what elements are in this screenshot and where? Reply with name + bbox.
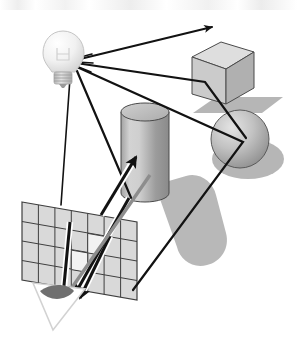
sphere-object: [211, 110, 269, 168]
bulb-glass: [43, 31, 84, 72]
sphere-body: [211, 110, 269, 168]
ray-tracing-illustration: [0, 0, 297, 356]
cylinder-object: [121, 103, 169, 202]
ray-tracing-figure: [0, 0, 297, 356]
